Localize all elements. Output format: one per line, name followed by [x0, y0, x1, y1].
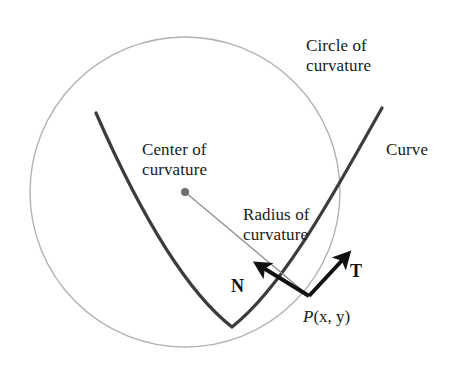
label-circle-of-curvature: Circle of curvature [306, 36, 371, 76]
circle-of-curvature-figure [0, 0, 456, 371]
label-curve: Curve [386, 140, 428, 160]
center-of-curvature-dot [181, 188, 189, 196]
label-normal-vector-n: N [231, 277, 244, 295]
point-p-name: P [303, 307, 313, 326]
label-center-of-curvature: Center of curvature [142, 140, 207, 180]
figure-container: Circle of curvature Center of curvature … [0, 0, 456, 371]
point-p-coordinates: (x, y) [313, 307, 350, 326]
label-tangent-vector-t: T [350, 262, 362, 280]
label-point-p: P(x, y) [303, 308, 350, 325]
label-radius-of-curvature: Radius of curvature [243, 205, 310, 245]
tangent-vector-arrow [309, 254, 348, 296]
